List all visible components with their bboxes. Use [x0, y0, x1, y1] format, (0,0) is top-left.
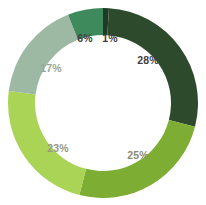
slice-label-25pct: 25%	[127, 150, 149, 161]
slice-label-1pct: 1%	[102, 33, 118, 44]
slice-label-28pct: 28%	[137, 55, 159, 66]
slice-label-23pct: 23%	[47, 143, 69, 154]
donut-slice-28pct[interactable]	[107, 8, 198, 126]
donut-chart: 1%28%25%23%17%6%	[0, 0, 206, 205]
donut-slice-17pct[interactable]	[9, 15, 78, 95]
slice-label-17pct: 17%	[40, 63, 62, 74]
slice-label-6pct: 6%	[77, 33, 93, 44]
donut-chart-svg	[0, 0, 206, 205]
